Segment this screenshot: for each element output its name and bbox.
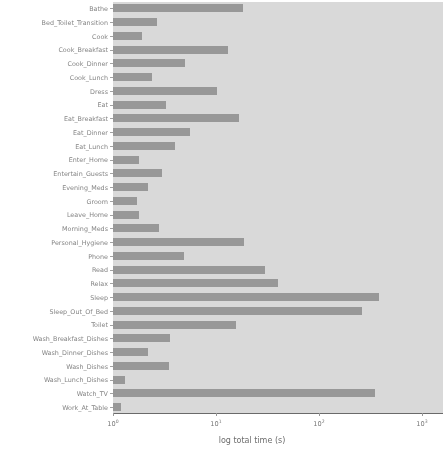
category-tick	[110, 366, 113, 367]
category-label: Enter_Home	[69, 156, 108, 164]
category-tick	[110, 173, 113, 174]
category-label: Eat_Breakfast	[64, 115, 108, 123]
bar	[113, 197, 137, 205]
bar	[113, 321, 236, 329]
bar	[113, 279, 278, 287]
x-tick-label: 101	[210, 419, 221, 428]
category-label: Wash_Dishes	[66, 363, 108, 371]
x-tick-label: 102	[313, 419, 324, 428]
category-tick	[110, 50, 113, 51]
x-tick-label: 103	[416, 419, 427, 428]
category-label: Eat_Dinner	[73, 129, 108, 137]
category-label: Watch_TV	[77, 390, 108, 398]
bar	[113, 46, 228, 54]
category-tick	[110, 22, 113, 23]
category-label: Wash_Lunch_Dishes	[44, 376, 108, 384]
category-tick	[110, 77, 113, 78]
bar	[113, 348, 148, 356]
category-tick	[110, 297, 113, 298]
category-tick	[110, 325, 113, 326]
bar	[113, 293, 379, 301]
category-tick	[110, 63, 113, 64]
category-label: Sleep	[90, 294, 108, 302]
category-tick	[110, 118, 113, 119]
category-label: Morning_Meds	[62, 225, 108, 233]
bar	[113, 389, 375, 397]
category-label: Personal_Hygiene	[51, 239, 108, 247]
category-tick	[110, 201, 113, 202]
x-tick-mark	[422, 413, 423, 416]
category-tick	[110, 393, 113, 394]
x-axis-title: log total time (s)	[0, 436, 448, 445]
bar	[113, 266, 265, 274]
category-tick	[110, 283, 113, 284]
category-tick	[110, 256, 113, 257]
category-label: Groom	[87, 198, 108, 206]
bar	[113, 4, 243, 12]
bar	[113, 183, 148, 191]
category-label: Toilet	[91, 321, 108, 329]
bar	[113, 32, 142, 40]
category-label: Entertain_Guests	[53, 170, 108, 178]
category-label: Cook_Breakfast	[58, 46, 108, 54]
bar	[113, 362, 169, 370]
category-tick	[110, 338, 113, 339]
x-tick-mark	[113, 413, 114, 416]
category-tick	[110, 270, 113, 271]
category-label: Eat_Lunch	[75, 143, 108, 151]
category-tick	[110, 352, 113, 353]
category-tick	[110, 380, 113, 381]
category-label: Wash_Dinner_Dishes	[42, 349, 108, 357]
bar	[113, 87, 217, 95]
bar	[113, 142, 175, 150]
bar	[113, 59, 185, 67]
category-label: Read	[92, 266, 108, 274]
bar	[113, 128, 190, 136]
bar	[113, 334, 170, 342]
category-label: Eat	[98, 101, 108, 109]
x-tick-mark	[319, 413, 320, 416]
category-label: Dress	[90, 88, 108, 96]
category-tick	[110, 132, 113, 133]
category-label: Phone	[88, 253, 108, 261]
category-tick	[110, 242, 113, 243]
category-label: Evening_Meds	[62, 184, 108, 192]
bar	[113, 169, 162, 177]
bar	[113, 376, 125, 384]
category-label: Wash_Breakfast_Dishes	[33, 335, 108, 343]
category-tick	[110, 36, 113, 37]
bar	[113, 73, 152, 81]
bar	[113, 101, 166, 109]
x-tick-mark	[216, 413, 217, 416]
category-label: Bathe	[89, 5, 108, 13]
category-label: Cook_Lunch	[70, 74, 108, 82]
bar	[113, 114, 239, 122]
category-label: Relax	[90, 280, 108, 288]
category-tick	[110, 228, 113, 229]
category-label: Cook	[92, 33, 108, 41]
category-tick	[110, 407, 113, 408]
bar	[113, 238, 244, 246]
x-tick-label: 100	[107, 419, 118, 428]
x-axis-line	[113, 413, 443, 414]
x-axis-title-text: log total time (s)	[163, 436, 286, 445]
category-tick	[110, 311, 113, 312]
bar	[113, 18, 157, 26]
category-tick	[110, 105, 113, 106]
category-tick	[110, 160, 113, 161]
category-tick	[110, 8, 113, 9]
bar	[113, 307, 362, 315]
category-label: Cook_Dinner	[67, 60, 108, 68]
category-tick	[110, 146, 113, 147]
category-label: Bed_Toilet_Transition	[42, 19, 108, 27]
bar	[113, 252, 184, 260]
bar	[113, 224, 159, 232]
category-tick	[110, 187, 113, 188]
bar	[113, 211, 139, 219]
figure: Results Analysis and Discussion BatheBed…	[0, 0, 448, 460]
bar	[113, 156, 139, 164]
category-label: Work_At_Table	[62, 404, 108, 412]
category-label: Leave_Home	[67, 211, 108, 219]
category-label: Sleep_Out_Of_Bed	[49, 308, 108, 316]
category-tick	[110, 215, 113, 216]
